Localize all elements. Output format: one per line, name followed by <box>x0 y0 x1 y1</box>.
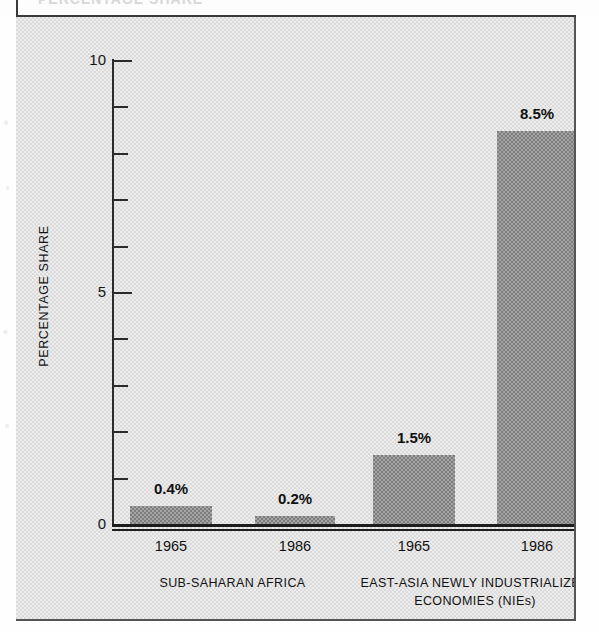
group-label-line: EAST-ASIA NEWLY INDUSTRIALIZED <box>353 574 576 592</box>
y-tick-6 <box>114 246 128 248</box>
x-tick-label-1: 1986 <box>255 538 335 554</box>
y-tick-10 <box>114 60 132 62</box>
y-tick-2 <box>114 431 128 433</box>
bar-value-label-1: 0.2% <box>255 490 335 507</box>
scan-speck <box>5 424 9 428</box>
chart-screenshot: PERCENTAGE SHARE 1050 PERCENTAGE SHARE 0… <box>0 0 599 632</box>
bar-0[interactable] <box>130 506 212 525</box>
group-label-line: ECONOMIES (NIEs) <box>353 592 576 610</box>
y-tick-9 <box>114 106 128 108</box>
cropped-title-text: PERCENTAGE SHARE <box>38 0 203 7</box>
y-tick-7 <box>114 199 128 201</box>
y-tick-8 <box>114 153 128 155</box>
bar-value-label-0: 0.4% <box>130 480 212 497</box>
y-tick-4 <box>114 338 128 340</box>
x-axis-baseline <box>112 524 576 527</box>
bar-2[interactable] <box>373 455 455 525</box>
y-axis-title: PERCENTAGE SHARE <box>37 216 51 376</box>
y-tick-1 <box>114 478 128 480</box>
group-label-0: SUB-SAHARAN AFRICA <box>110 574 355 592</box>
x-tick-label-3: 1986 <box>497 538 576 554</box>
bar-value-label-3: 8.5% <box>497 105 576 122</box>
y-tick-label-wrap: 10 <box>66 61 106 62</box>
y-tick-label-0: 0 <box>70 515 106 532</box>
y-tick-label-10: 10 <box>70 51 106 68</box>
scan-speck <box>3 330 8 334</box>
y-tick-5 <box>114 292 132 294</box>
x-axis-baseline-secondary <box>112 529 576 531</box>
cropped-title-band: PERCENTAGE SHARE <box>0 0 599 17</box>
x-tick-label-0: 1965 <box>130 538 212 554</box>
bar-3[interactable] <box>497 131 576 525</box>
y-tick-label-wrap: 5 <box>66 293 106 294</box>
group-label-line: SUB-SAHARAN AFRICA <box>110 574 355 592</box>
y-tick-label-5: 5 <box>70 283 106 300</box>
bar-value-label-2: 1.5% <box>373 429 455 446</box>
x-tick-label-2: 1965 <box>373 538 455 554</box>
y-tick-3 <box>114 385 128 387</box>
group-label-1: EAST-ASIA NEWLY INDUSTRIALIZEDECONOMIES … <box>353 574 576 610</box>
scan-speck <box>4 120 8 125</box>
scan-speck <box>6 186 9 190</box>
y-tick-label-wrap: 0 <box>66 525 106 526</box>
chart-plot-panel: 1050 PERCENTAGE SHARE 0.4%0.2%1.5%8.5% 1… <box>16 17 576 621</box>
